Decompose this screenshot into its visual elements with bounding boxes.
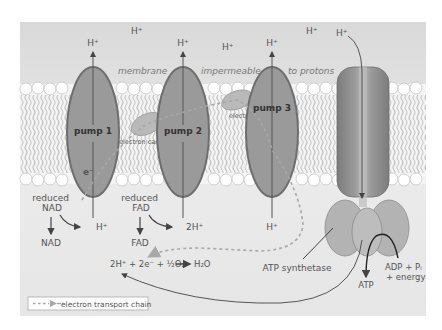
atp-synthetase-label: ATP synthetase xyxy=(262,263,331,273)
fad-product: FAD xyxy=(131,238,149,248)
free-proton: H⁺ xyxy=(306,26,318,36)
caption-membrane: membrane xyxy=(118,66,168,76)
nad-product: NAD xyxy=(41,238,61,248)
pump-1-label: pump 1 xyxy=(74,126,112,136)
legend: electron transport chain xyxy=(28,297,152,310)
electron-label: e⁻ xyxy=(83,167,94,177)
pump-1-bottom-ion: H⁺ xyxy=(96,222,108,232)
free-proton: H⁺ xyxy=(131,26,143,36)
legend-label: electron transport chain xyxy=(61,300,152,309)
adp-label: ADP + Pᵢ + energy xyxy=(385,262,425,282)
pump-3-top-ion: H⁺ xyxy=(266,38,278,48)
caption-to-protons: to protons xyxy=(288,66,335,76)
pump-2-top-ion: H⁺ xyxy=(177,38,189,48)
water-product: H₂O xyxy=(194,259,211,269)
pump-3-label: pump 3 xyxy=(253,103,291,113)
caption-impermeable: impermeable xyxy=(201,66,261,76)
etc-diagram: membrane impermeable to protons H⁺ H⁺ H⁺… xyxy=(0,0,442,330)
pump-2-label: pump 2 xyxy=(164,126,202,136)
pump-3-bottom-ion: H⁺ xyxy=(266,222,278,232)
free-proton: H⁺ xyxy=(222,42,234,52)
pump-1-top-ion: H⁺ xyxy=(87,38,99,48)
synthase-proton: H⁺ xyxy=(336,28,348,38)
pump-2-bottom-ion: 2H⁺ xyxy=(186,222,203,232)
atp-label: ATP xyxy=(358,280,373,290)
water-equation: 2H⁺ + 2e⁻ + ½O₂ xyxy=(110,259,185,269)
